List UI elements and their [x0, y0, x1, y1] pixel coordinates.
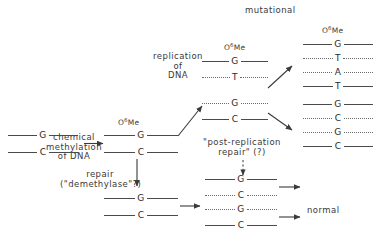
strand-line-left — [303, 146, 332, 147]
base-letter: T — [230, 73, 241, 82]
strand-top: A — [303, 68, 373, 77]
base-letter: C — [37, 148, 49, 157]
strand-line-right — [147, 135, 178, 136]
base-letter: C — [332, 114, 344, 123]
base-letter: G — [235, 175, 247, 184]
strand-line-left — [202, 61, 229, 62]
strand-bottom: T — [303, 54, 373, 63]
strand-top: G — [205, 175, 277, 184]
arrow-to-mutational — [268, 66, 292, 88]
strand-top: G — [202, 99, 268, 108]
base-letter: G — [229, 99, 241, 108]
strand-line-left — [303, 132, 332, 133]
base-letter: C — [235, 221, 247, 230]
strand-line-left — [205, 195, 235, 196]
strand-line-right — [147, 215, 178, 216]
strand-line-left — [205, 209, 235, 210]
strand-line-left — [104, 215, 135, 216]
strand-bottom: C — [205, 221, 277, 230]
base-letter: C — [235, 191, 247, 200]
base-letter: G — [332, 100, 344, 109]
base-letter: G — [229, 57, 241, 66]
strand-line-right — [344, 72, 373, 73]
strand-line-right — [240, 77, 268, 78]
strand-line-right — [344, 146, 373, 147]
base-letter: G — [235, 205, 247, 214]
label-mutational: mutational — [245, 6, 296, 16]
strand-line-right — [344, 118, 373, 119]
strand-line-right — [241, 61, 268, 62]
strand-top: G — [104, 131, 178, 140]
strand-top: G — [104, 194, 178, 203]
base-letter: C — [135, 211, 147, 220]
strand-bottom: C — [202, 115, 268, 124]
diagram-canvas: chemical methylation of DNA replication … — [0, 0, 377, 243]
strand-bottom: C — [205, 191, 277, 200]
strand-line-right — [147, 152, 178, 153]
label-repair-demethylase: repair ("demethylase"?) — [60, 170, 140, 189]
strand-line-right — [343, 86, 373, 87]
strand-line-left — [205, 179, 235, 180]
strand-line-left — [303, 72, 332, 73]
label-post-replication-repair: "post-replication repair" (?) — [196, 138, 288, 157]
arrow-to-repair-outcome — [268, 113, 292, 130]
strand-line-left — [303, 118, 332, 119]
strand-line-right — [247, 225, 277, 226]
arrow-replication — [178, 106, 202, 136]
strand-line-left — [104, 198, 135, 199]
strand-line-left — [8, 152, 37, 153]
methyl-tag-methylated-dna: O6Me — [118, 119, 139, 127]
strand-bottom: C — [303, 142, 373, 151]
strand-line-left — [202, 77, 230, 78]
strand-line-left — [303, 104, 332, 105]
strand-line-right — [241, 119, 268, 120]
strand-line-right — [49, 152, 78, 153]
strand-top: G — [202, 57, 268, 66]
base-letter: T — [333, 82, 344, 91]
strand-bottom: C — [104, 148, 178, 157]
strand-line-left — [202, 103, 229, 104]
strand-line-right — [247, 195, 277, 196]
strand-bottom: C — [8, 148, 78, 157]
methyl-group: Me — [332, 26, 344, 35]
methyl-group: Me — [128, 118, 140, 127]
strand-line-left — [303, 86, 333, 87]
strand-top: G — [303, 40, 373, 49]
strand-line-right — [247, 209, 277, 210]
strand-bottom: C — [303, 114, 373, 123]
base-letter: G — [332, 128, 344, 137]
strand-line-left — [303, 44, 332, 45]
strand-line-right — [344, 132, 373, 133]
methyl-tag-mutational: O6Me — [322, 27, 343, 35]
strand-line-right — [147, 198, 178, 199]
strand-top: G — [303, 100, 373, 109]
base-letter: G — [37, 131, 49, 140]
strand-bottom: C — [104, 211, 178, 220]
base-letter: C — [135, 148, 147, 157]
strand-line-right — [344, 104, 373, 105]
base-letter: C — [229, 115, 241, 124]
strand-bottom: T — [202, 73, 268, 82]
strand-line-right — [343, 58, 373, 59]
base-letter: G — [332, 40, 344, 49]
methyl-tag-replicated-top: O6Me — [224, 44, 245, 52]
strand-line-right — [247, 179, 277, 180]
strand-line-left — [202, 119, 229, 120]
strand-line-left — [104, 135, 135, 136]
strand-line-right — [49, 135, 78, 136]
strand-line-right — [241, 103, 268, 104]
strand-bottom: T — [303, 82, 373, 91]
strand-top: G — [205, 205, 277, 214]
label-normal: normal — [307, 206, 339, 216]
strand-line-right — [344, 44, 373, 45]
base-letter: A — [332, 68, 343, 77]
strand-line-left — [205, 225, 235, 226]
strand-top: G — [8, 131, 78, 140]
strand-line-left — [8, 135, 37, 136]
base-letter: C — [332, 142, 344, 151]
strand-line-left — [303, 58, 333, 59]
strand-top: G — [303, 128, 373, 137]
base-letter: G — [135, 194, 147, 203]
strand-line-left — [104, 152, 135, 153]
base-letter: T — [333, 54, 344, 63]
